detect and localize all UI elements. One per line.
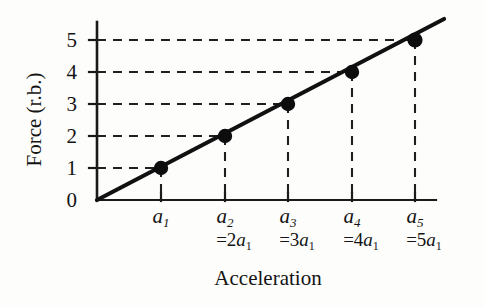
x-tick-sublabel-a3: =3a1 [266, 230, 328, 252]
x-tick-sublabel-a4-base: a [363, 229, 373, 250]
y-tick-label-2: 2 [51, 126, 77, 147]
x-tick-sublabel-a4-prefix: = [343, 229, 354, 250]
x-tick-label-a4-base: a [344, 204, 355, 228]
x-tick-label-a1-sub: 1 [163, 215, 170, 230]
x-tick-sublabel-a5-prefix: = [406, 229, 417, 250]
x-tick-sublabel-a2-prefix: = [216, 229, 227, 250]
x-tick-label-a2-base: a [217, 204, 228, 228]
x-tick-label-a1: a1 [138, 206, 184, 229]
data-point-a1 [154, 161, 168, 175]
data-point-a5 [407, 32, 422, 47]
figure-force-vs-acceleration: 5 4 3 2 1 0 a1 a2 a3 a4 a5 =2a1 =3a1 =4a… [0, 0, 484, 307]
x-tick-sublabel-a3-sub: 1 [309, 239, 315, 253]
y-tick-label-0: 0 [51, 190, 77, 211]
x-tick-sublabel-a4: =4a1 [330, 230, 392, 252]
x-tick-sublabel-a5-coef: 5 [417, 229, 427, 250]
x-tick-label-a4: a4 [329, 206, 375, 229]
x-axis-title: Acceleration [198, 266, 338, 291]
y-tick-label-1: 1 [51, 158, 77, 179]
x-tick-label-a5-sub: 5 [417, 215, 424, 230]
x-tick-label-a2: a2 [202, 206, 248, 229]
x-tick-sublabel-a5-base: a [426, 229, 436, 250]
x-tick-sublabel-a3-coef: 3 [290, 229, 300, 250]
x-tick-label-a2-sub: 2 [227, 215, 234, 230]
y-tick-label-3: 3 [51, 94, 77, 115]
x-tick-sublabel-a4-sub: 1 [373, 239, 379, 253]
y-tick-label-4: 4 [51, 62, 77, 83]
data-point-a4 [345, 65, 359, 79]
x-tick-sublabel-a3-base: a [299, 229, 309, 250]
x-tick-sublabel-a2-coef: 2 [227, 229, 237, 250]
x-tick-sublabel-a2-sub: 1 [246, 239, 252, 253]
x-tick-sublabel-a5-sub: 1 [436, 239, 442, 253]
y-axis-title: Force (r.b.) [22, 55, 47, 185]
x-tick-sublabel-a2-base: a [236, 229, 246, 250]
x-tick-label-a4-sub: 4 [354, 215, 361, 230]
x-tick-label-a1-base: a [153, 204, 164, 228]
x-tick-sublabel-a5: =5a1 [393, 230, 455, 252]
x-tick-label-a5: a5 [392, 206, 438, 229]
x-tick-label-a3-sub: 3 [290, 215, 297, 230]
x-tick-sublabel-a3-prefix: = [279, 229, 290, 250]
data-point-a2 [218, 129, 232, 143]
x-tick-label-a5-base: a [407, 204, 418, 228]
data-line-force-acceleration [97, 19, 444, 200]
x-tick-label-a3-base: a [280, 204, 291, 228]
x-tick-sublabel-a2: =2a1 [203, 230, 265, 252]
data-point-a3 [281, 97, 295, 111]
x-tick-sublabel-a4-coef: 4 [354, 229, 364, 250]
y-tick-label-5: 5 [51, 30, 77, 51]
vertical-guide-lines [161, 40, 415, 197]
x-tick-label-a3: a3 [265, 206, 311, 229]
